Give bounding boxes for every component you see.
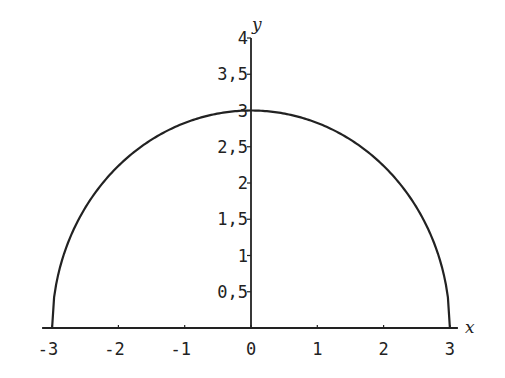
semicircle-plot: -3-2-10123 0,511,522,533,54 x y bbox=[0, 0, 505, 378]
y-axis-label: y bbox=[251, 14, 262, 34]
x-tick-label: 1 bbox=[312, 339, 322, 359]
y-axis-ticks: 0,511,522,533,54 bbox=[217, 28, 251, 302]
x-tick-label: -1 bbox=[170, 339, 190, 359]
y-tick-label: 2,5 bbox=[217, 137, 248, 157]
x-tick-label: -2 bbox=[104, 339, 124, 359]
x-tick-label: 0 bbox=[246, 339, 256, 359]
y-tick-label: 4 bbox=[238, 28, 248, 48]
x-axis-label: x bbox=[465, 317, 475, 337]
x-tick-label: 3 bbox=[445, 339, 455, 359]
y-tick-label: 3 bbox=[238, 101, 248, 121]
y-tick-label: 0,5 bbox=[217, 282, 248, 302]
y-tick-label: 2 bbox=[238, 173, 248, 193]
x-axis-ticks: -3-2-10123 bbox=[38, 325, 455, 359]
y-tick-label: 1,5 bbox=[217, 209, 248, 229]
x-tick-label: -3 bbox=[38, 339, 58, 359]
y-tick-label: 1 bbox=[238, 246, 248, 266]
y-tick-label: 3,5 bbox=[217, 64, 248, 84]
x-tick-label: 2 bbox=[378, 339, 388, 359]
